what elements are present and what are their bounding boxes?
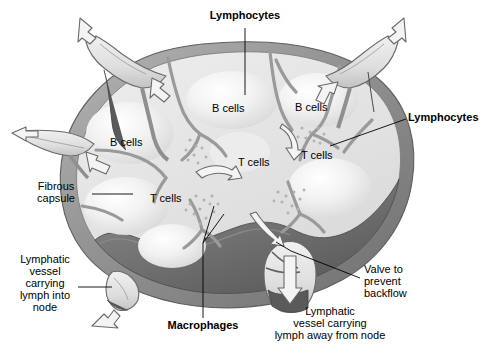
inflow-arrow-top-left xyxy=(78,18,96,44)
label-lymphocytes-top: Lymphocytes xyxy=(200,10,290,22)
inflow-arrow-top-right xyxy=(388,18,406,44)
region-label-t-cells-center: T cells xyxy=(238,157,270,169)
region-label-b-cells-center: B cells xyxy=(212,103,244,115)
label-vessel-into-node: Lymphatic vessel carrying lymph into nod… xyxy=(8,254,82,313)
label-lymphocytes-right: Lymphocytes xyxy=(408,112,484,124)
lymph-node-diagram: Lymphocytes Lymphocytes Fibrous capsule … xyxy=(0,0,484,355)
inflow-arrow-bottom-left xyxy=(92,310,120,328)
region-label-b-cells-left: B cells xyxy=(110,137,142,149)
label-fibrous-capsule: Fibrous capsule xyxy=(22,181,90,205)
region-label-b-cells-right: B cells xyxy=(295,102,327,114)
region-label-t-cells-right: T cells xyxy=(301,150,333,162)
region-label-t-cells-lower-left: T cells xyxy=(150,193,182,205)
label-macrophages: Macrophages xyxy=(158,320,248,332)
label-valve: Valve to prevent backflow xyxy=(364,264,434,300)
label-vessel-away-from-node: Lymphatic vessel carrying lymph away fro… xyxy=(260,306,400,342)
